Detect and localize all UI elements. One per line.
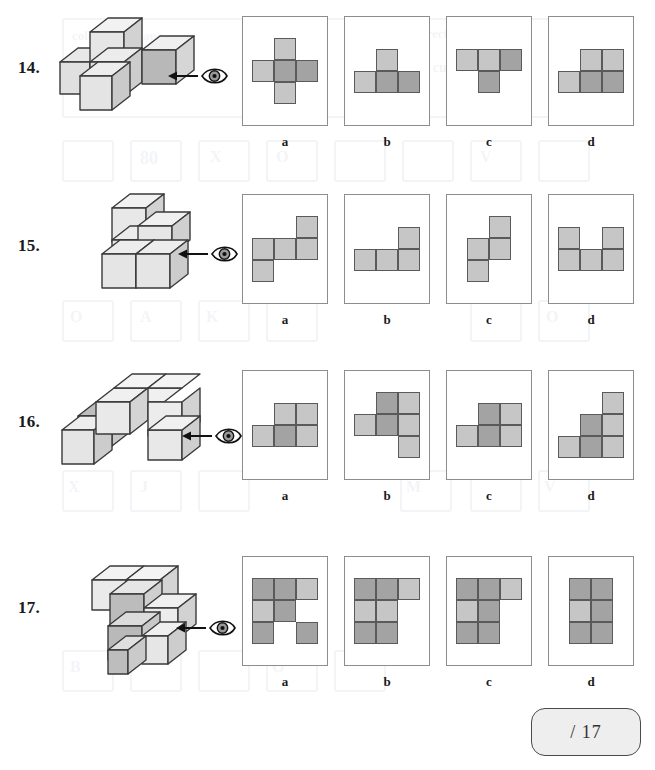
option-grid [344, 370, 430, 480]
grid-cell [602, 436, 624, 458]
grid-cell [274, 425, 296, 447]
grid-cell [376, 578, 398, 600]
grid-cell [274, 60, 296, 82]
grid-cell [602, 49, 624, 71]
grid-cell [558, 249, 580, 271]
eye-icon [202, 69, 227, 83]
view-direction-indicator-17 [174, 616, 234, 640]
grid-cell [274, 82, 296, 104]
view-direction-indicator-16 [180, 424, 240, 448]
option-grid [344, 194, 430, 304]
grid-cell [602, 392, 624, 414]
grid-cell [478, 622, 500, 644]
answer-options-17: a b c d [240, 548, 650, 708]
option-label-a: a [242, 674, 328, 690]
option-16-d[interactable]: d [548, 370, 636, 482]
option-label-d: d [548, 674, 634, 690]
grid-cell [274, 238, 296, 260]
option-grid [242, 194, 328, 304]
grid-cell [252, 578, 274, 600]
grid-cell [398, 436, 420, 458]
grid-cell [558, 71, 580, 93]
option-label-d: d [548, 312, 634, 328]
grid-cell [398, 249, 420, 271]
question-row-14: 14. [0, 8, 655, 184]
option-15-b[interactable]: b [344, 194, 432, 306]
option-grid [548, 16, 634, 126]
grid-cell [354, 414, 376, 436]
grid-cell [296, 403, 318, 425]
option-14-d[interactable]: d [548, 16, 636, 128]
option-grid [344, 16, 430, 126]
score-box[interactable]: / 17 [531, 708, 641, 756]
grid-cell [398, 578, 420, 600]
arrow-left-icon [182, 432, 212, 441]
grid-cell [602, 249, 624, 271]
option-15-d[interactable]: d [548, 194, 636, 306]
grid-cell [602, 414, 624, 436]
grid-cell [500, 49, 522, 71]
option-grid [344, 556, 430, 666]
option-label-c: c [446, 312, 532, 328]
grid-cell [274, 403, 296, 425]
grid-cell [569, 600, 591, 622]
option-14-c[interactable]: c [446, 16, 534, 128]
option-17-c[interactable]: c [446, 556, 534, 668]
answer-options-14: a b c d [240, 8, 650, 168]
option-14-b[interactable]: b [344, 16, 432, 128]
grid-cell [558, 227, 580, 249]
eye-icon [210, 621, 235, 635]
grid-cell [376, 622, 398, 644]
question-row-17: 17. [0, 548, 655, 724]
grid-cell [354, 249, 376, 271]
grid-cell [354, 622, 376, 644]
grid-cell [478, 425, 500, 447]
option-grid [446, 194, 532, 304]
option-16-c[interactable]: c [446, 370, 534, 482]
grid-cell [398, 71, 420, 93]
question-row-16: 16. [0, 362, 655, 538]
option-15-c[interactable]: c [446, 194, 534, 306]
grid-cell [456, 425, 478, 447]
grid-cell [456, 600, 478, 622]
option-17-b[interactable]: b [344, 556, 432, 668]
option-16-a[interactable]: a [242, 370, 330, 482]
grid-cell [398, 392, 420, 414]
option-label-d: d [548, 134, 634, 150]
option-16-b[interactable]: b [344, 370, 432, 482]
grid-cell [354, 600, 376, 622]
grid-cell [580, 49, 602, 71]
grid-cell [456, 622, 478, 644]
grid-cell [376, 414, 398, 436]
option-17-d[interactable]: d [548, 556, 636, 668]
score-label: / 17 [570, 722, 602, 743]
grid-cell [376, 392, 398, 414]
option-grid [446, 16, 532, 126]
grid-cell [252, 622, 274, 644]
grid-cell [500, 425, 522, 447]
option-label-c: c [446, 488, 532, 504]
grid-cell [456, 49, 478, 71]
grid-cell [398, 414, 420, 436]
option-label-b: b [344, 674, 430, 690]
block-stack-16 [50, 368, 190, 488]
option-label-a: a [242, 134, 328, 150]
option-14-a[interactable]: a [242, 16, 330, 128]
option-label-a: a [242, 488, 328, 504]
grid-cell [252, 260, 274, 282]
option-grid [446, 556, 532, 666]
option-grid [548, 370, 634, 480]
grid-cell [376, 71, 398, 93]
option-15-a[interactable]: a [242, 194, 330, 306]
grid-cell [296, 622, 318, 644]
option-17-a[interactable]: a [242, 556, 330, 668]
question-number-14: 14. [18, 58, 40, 78]
grid-cell [569, 622, 591, 644]
option-grid [242, 370, 328, 480]
grid-cell [569, 578, 591, 600]
option-grid [242, 556, 328, 666]
grid-cell [478, 600, 500, 622]
grid-cell [296, 60, 318, 82]
block-stack-17 [50, 554, 190, 674]
option-label-b: b [344, 312, 430, 328]
